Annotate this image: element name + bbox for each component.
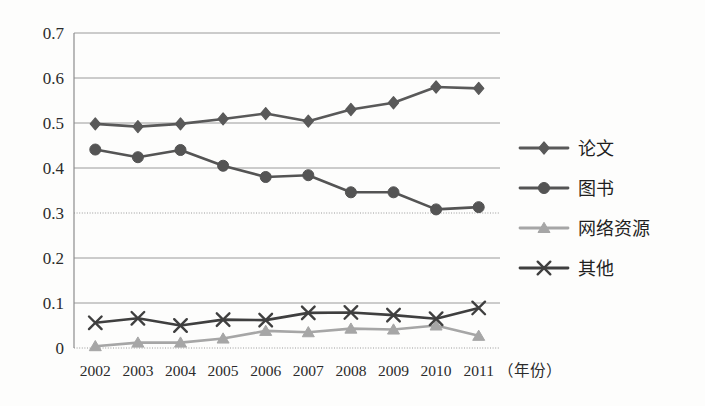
y-tick-label: 0.3 [43,204,64,223]
legend-label: 其他 [578,259,614,279]
legend-label: 网络资源 [578,219,650,239]
y-tick-label: 0.2 [43,249,64,268]
x-tick-label: 2011 [463,362,493,379]
chart-container: 00.10.20.30.40.50.60.7 20022003200420052… [0,0,705,406]
data-point-marker [388,187,399,198]
data-point-marker [431,204,442,215]
y-tick-label: 0 [56,339,65,358]
x-axis-title: （年份） [498,362,562,379]
x-tick-label: 2007 [293,362,324,379]
data-point-marker [345,187,356,198]
x-tick-label: 2010 [421,362,452,379]
data-point-marker [218,160,229,171]
y-tick-label: 0.7 [43,24,65,43]
x-tick-label: 2003 [122,362,153,379]
y-tick-label: 0.1 [43,294,64,313]
legend-label: 论文 [578,139,614,159]
x-tick-label: 2004 [165,362,196,379]
data-point-marker [473,202,484,213]
y-tick-label: 0.6 [43,69,64,88]
data-point-marker [90,144,101,155]
data-point-marker [303,170,314,181]
data-point-marker [132,152,143,163]
data-point-marker [260,171,271,182]
data-point-marker [538,182,549,193]
x-tick-label: 2009 [378,362,409,379]
y-tick-label: 0.4 [43,159,65,178]
x-tick-label: 2008 [335,362,366,379]
y-tick-label: 0.5 [43,114,64,133]
data-point-marker [175,144,186,155]
x-tick-label: 2005 [208,362,239,379]
legend-label: 图书 [578,179,614,199]
x-tick-label: 2002 [80,362,111,379]
x-tick-label: 2006 [250,362,281,379]
line-chart: 00.10.20.30.40.50.60.7 20022003200420052… [0,0,705,406]
